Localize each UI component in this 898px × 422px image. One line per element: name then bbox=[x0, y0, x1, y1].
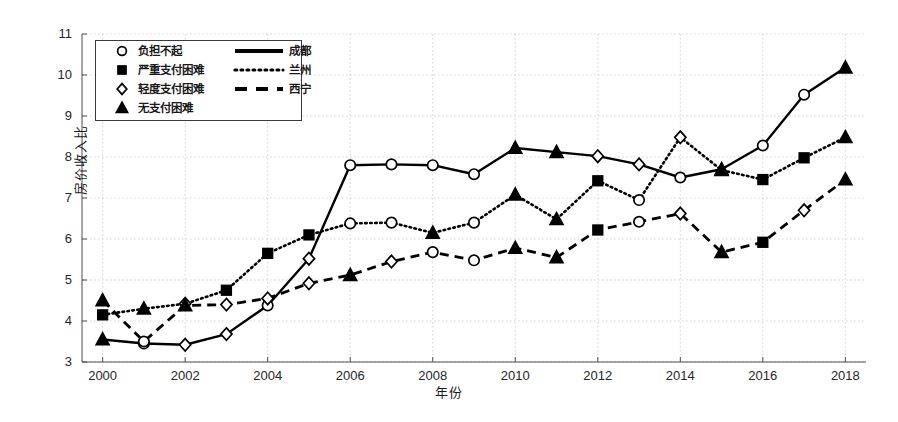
legend-marker-diamond bbox=[112, 79, 132, 98]
x-tick-label: 2010 bbox=[485, 368, 545, 383]
data-point bbox=[839, 131, 852, 143]
x-tick-label: 2008 bbox=[403, 368, 463, 383]
data-point bbox=[469, 217, 479, 227]
legend-marker-label: 负担不起 bbox=[138, 42, 182, 58]
legend-marker-triangle bbox=[112, 98, 132, 117]
legend-marker-label: 无支付困难 bbox=[138, 99, 193, 115]
data-point bbox=[221, 298, 232, 310]
data-point bbox=[839, 61, 852, 73]
legend-line-dashed bbox=[233, 79, 285, 98]
data-point bbox=[509, 188, 522, 200]
y-tick-label: 5 bbox=[42, 272, 72, 287]
data-point bbox=[263, 249, 273, 259]
data-point bbox=[98, 310, 108, 320]
data-point bbox=[345, 218, 355, 228]
legend-marker-circle bbox=[112, 41, 132, 60]
x-tick-label: 2016 bbox=[733, 368, 793, 383]
y-tick-label: 3 bbox=[42, 354, 72, 369]
data-point bbox=[139, 336, 149, 346]
data-point bbox=[386, 255, 397, 267]
data-point bbox=[592, 150, 603, 162]
data-point bbox=[428, 247, 438, 257]
legend-row: 严重支付困难兰州 bbox=[96, 60, 301, 79]
data-point bbox=[469, 255, 479, 265]
data-point bbox=[345, 160, 355, 170]
data-point bbox=[799, 89, 809, 99]
x-tick-label: 2018 bbox=[815, 368, 875, 383]
data-point bbox=[222, 285, 232, 295]
data-point bbox=[303, 277, 314, 289]
data-point bbox=[758, 237, 768, 247]
legend-row: 轻度支付困难西宁 bbox=[96, 79, 301, 98]
y-tick-label: 8 bbox=[42, 149, 72, 164]
data-point bbox=[839, 173, 852, 185]
x-tick-label: 2014 bbox=[650, 368, 710, 383]
data-point bbox=[469, 169, 479, 179]
y-tick-label: 4 bbox=[42, 313, 72, 328]
data-point bbox=[509, 241, 522, 253]
legend-line-label: 西宁 bbox=[289, 80, 311, 96]
legend-row: 负担不起成都 bbox=[96, 41, 301, 60]
legend-line-label: 兰州 bbox=[289, 61, 311, 77]
data-point bbox=[304, 230, 314, 240]
legend-line-solid bbox=[233, 41, 285, 60]
x-tick-label: 2006 bbox=[320, 368, 380, 383]
x-tick-label: 2000 bbox=[73, 368, 133, 383]
y-tick-label: 7 bbox=[42, 190, 72, 205]
data-point bbox=[593, 176, 603, 186]
data-point bbox=[758, 175, 768, 185]
data-point bbox=[180, 339, 191, 351]
data-point bbox=[675, 172, 685, 182]
x-tick-label: 2002 bbox=[155, 368, 215, 383]
data-point bbox=[799, 153, 809, 163]
data-point bbox=[758, 140, 768, 150]
y-tick-label: 9 bbox=[42, 108, 72, 123]
data-point bbox=[634, 195, 644, 205]
data-point bbox=[221, 328, 232, 340]
legend-line-label: 成都 bbox=[289, 42, 311, 58]
chart-figure: 房价收入比 年份 34567891011 2000200220042006200… bbox=[0, 0, 898, 422]
legend-marker-label: 轻度支付困难 bbox=[138, 80, 204, 96]
data-point bbox=[593, 225, 603, 235]
legend-row: 无支付困难 bbox=[96, 98, 301, 117]
legend-rows: 负担不起成都严重支付困难兰州轻度支付困难西宁无支付困难 bbox=[96, 41, 301, 117]
data-point bbox=[634, 217, 644, 227]
legend-marker-label: 严重支付困难 bbox=[138, 61, 204, 77]
data-point bbox=[96, 294, 109, 306]
data-point bbox=[633, 158, 644, 170]
legend-marker-square bbox=[112, 60, 132, 79]
y-tick-label: 6 bbox=[42, 231, 72, 246]
data-point bbox=[550, 251, 563, 263]
x-tick-label: 2012 bbox=[568, 368, 628, 383]
x-axis-title: 年份 bbox=[0, 382, 898, 401]
data-point bbox=[386, 217, 396, 227]
chart-legend: 负担不起成都严重支付困难兰州轻度支付困难西宁无支付困难 bbox=[95, 40, 302, 121]
y-tick-label: 11 bbox=[42, 26, 72, 41]
data-point bbox=[428, 160, 438, 170]
y-tick-label: 10 bbox=[42, 67, 72, 82]
x-tick-label: 2004 bbox=[238, 368, 298, 383]
y-axis-title: 房价收入比 bbox=[70, 95, 89, 225]
legend-line-dotted bbox=[233, 60, 285, 79]
data-point bbox=[386, 159, 396, 169]
